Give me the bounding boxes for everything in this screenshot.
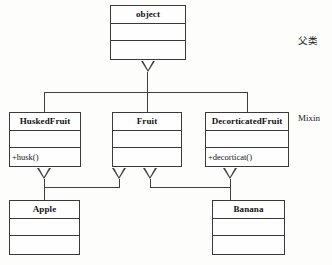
generalization-arrow-to-fruit-from-banana bbox=[143, 168, 157, 179]
operation-husk: +husk() bbox=[12, 153, 39, 162]
class-name-huskedfruit: HuskedFruit bbox=[10, 113, 80, 131]
annotation-parent-class: 父类 bbox=[298, 33, 318, 47]
generalization-arrow-to-decorticatedfruit bbox=[223, 168, 237, 179]
class-operations-banana bbox=[213, 236, 284, 254]
edge-apple-bus bbox=[44, 187, 120, 188]
operation-decorticat: +decorticat() bbox=[208, 153, 252, 162]
edge-bus-to-huskedfruit bbox=[44, 92, 45, 112]
class-box-banana[interactable]: Banana bbox=[212, 200, 285, 255]
class-operations-apple bbox=[10, 236, 79, 254]
edge-object-stem bbox=[147, 72, 148, 93]
class-attributes-decorticatedfruit bbox=[206, 131, 288, 149]
class-attributes-banana bbox=[213, 219, 284, 237]
class-name-decorticatedfruit: DecorticatedFruit bbox=[206, 113, 288, 131]
edge-bus-to-fruit bbox=[147, 92, 148, 112]
generalization-arrow-to-huskedfruit bbox=[37, 168, 51, 179]
class-name-object: object bbox=[111, 6, 185, 24]
class-name-fruit: Fruit bbox=[113, 113, 181, 131]
class-name-apple: Apple bbox=[10, 201, 79, 219]
edge-banana-bus bbox=[150, 187, 231, 188]
class-attributes-apple bbox=[10, 219, 79, 237]
uml-class-diagram: object HuskedFruit +husk() Fruit Decorti… bbox=[0, 0, 332, 265]
class-box-decorticatedfruit[interactable]: DecorticatedFruit +decorticat() bbox=[205, 112, 289, 167]
class-box-huskedfruit[interactable]: HuskedFruit +husk() bbox=[9, 112, 81, 167]
annotation-mixin: Mixin bbox=[298, 113, 320, 123]
generalization-arrow-to-fruit-from-apple bbox=[112, 168, 126, 179]
edge-banana-stem bbox=[230, 187, 231, 200]
class-name-banana: Banana bbox=[213, 201, 284, 219]
class-box-fruit[interactable]: Fruit bbox=[112, 112, 182, 167]
class-operations-object bbox=[111, 41, 185, 59]
class-box-apple[interactable]: Apple bbox=[9, 200, 80, 255]
class-attributes-huskedfruit bbox=[10, 131, 80, 149]
class-attributes-fruit bbox=[113, 131, 181, 149]
class-box-object[interactable]: object bbox=[110, 5, 186, 60]
class-attributes-object bbox=[111, 24, 185, 42]
class-operations-fruit bbox=[113, 148, 181, 166]
generalization-arrow-to-object bbox=[141, 61, 155, 72]
edge-object-bus bbox=[44, 92, 248, 93]
class-operations-huskedfruit: +husk() bbox=[10, 148, 80, 166]
edge-apple-stem bbox=[44, 187, 45, 200]
class-operations-decorticatedfruit: +decorticat() bbox=[206, 148, 288, 166]
edge-bus-to-decorticatedfruit bbox=[247, 92, 248, 112]
